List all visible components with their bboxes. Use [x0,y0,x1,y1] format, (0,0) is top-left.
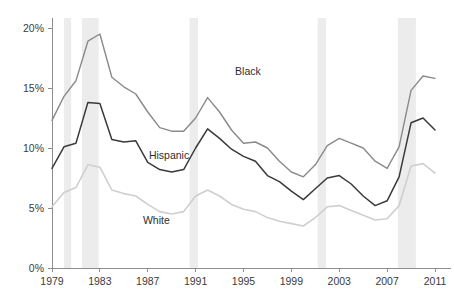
recession-bands-group [64,18,416,268]
unemployment-rate-line-chart: 0%5%10%15%20% 19791983198719911995199920… [0,0,454,296]
series-line-black [52,34,435,177]
recession-band-recession-1980 [64,18,71,268]
y-axis-tick-label: 5% [29,202,44,214]
series-label-white: White [143,214,170,226]
x-axis-tick-label: 1991 [184,275,208,287]
x-axis-tick-label: 1995 [232,275,256,287]
x-axis-tick-label: 1979 [40,275,64,287]
x-axis-tick-label: 2011 [424,275,447,287]
recession-band-recession-2001 [318,18,326,268]
x-axis-tick-label: 2007 [375,275,399,287]
y-axis-tick-label: 15% [23,82,44,94]
y-axis-tick-label: 10% [23,142,44,154]
data-series-group [52,34,435,226]
series-inline-labels-group: BlackHispanicWhite [143,65,262,226]
x-axis-tick-label: 1987 [136,275,160,287]
series-line-hispanic [52,102,435,205]
chart-canvas: 0%5%10%15%20% 19791983198719911995199920… [0,0,454,296]
recession-band-recession-1990-1991 [190,18,198,268]
y-axis-ticks-group: 0%5%10%15%20% [23,22,52,274]
series-label-hispanic: Hispanic [149,149,189,161]
series-label-black: Black [235,65,261,77]
x-axis-tick-label: 1983 [88,275,112,287]
x-axis-tick-label: 2003 [328,275,352,287]
x-axis-ticks-group: 197919831987199119951999200320072011 [40,268,446,287]
series-line-white [52,164,435,226]
y-axis-tick-label: 0% [29,262,44,274]
x-axis-tick-label: 1999 [280,275,304,287]
recession-band-recession-1981-1982 [82,18,99,268]
y-axis-tick-label: 20% [23,22,44,34]
